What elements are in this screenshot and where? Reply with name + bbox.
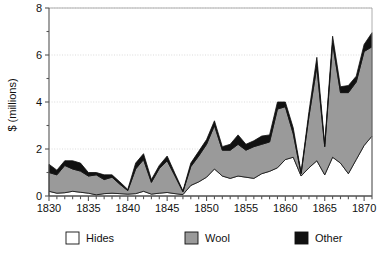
x-axis-tick-label: 1870 (352, 202, 376, 214)
legend-item-wool[interactable]: Wool (185, 232, 230, 244)
x-axis-tick-label: 1830 (37, 202, 61, 214)
legend-item-other[interactable]: Other (295, 232, 343, 244)
x-axis-tick-label: 1860 (273, 202, 297, 214)
x-axis-tick-label: 1845 (155, 202, 179, 214)
legend-swatch-other (295, 232, 308, 244)
y-axis-title-label: $ (millions) (6, 78, 18, 131)
legend-swatch-hides (66, 232, 79, 244)
y-axis-tick-label: 2 (36, 143, 42, 155)
stacked-area-chart: 02468 1830183518401845185018551860186518… (0, 0, 387, 260)
legend-item-hides[interactable]: Hides (66, 232, 115, 244)
x-axis-tick-label: 1855 (234, 202, 258, 214)
chart-legend: HidesWoolOther (66, 232, 343, 244)
y-axis-tick-label: 8 (36, 2, 42, 14)
y-axis-title: $ (millions) (6, 78, 18, 131)
legend-label-wool: Wool (205, 232, 230, 244)
legend-swatch-wool (185, 232, 198, 244)
chart-container: 02468 1830183518401845185018551860186518… (0, 0, 387, 260)
x-axis-tick-label: 1835 (76, 202, 100, 214)
y-axis-tick-label: 4 (36, 96, 42, 108)
x-axis-tick-label: 1840 (116, 202, 140, 214)
legend-label-hides: Hides (86, 232, 115, 244)
y-axis-tick-label: 6 (36, 49, 42, 61)
y-axis-tick-label: 0 (36, 190, 42, 202)
x-axis-tick-label: 1865 (312, 202, 336, 214)
legend-label-other: Other (315, 232, 343, 244)
x-axis-tick-label: 1850 (194, 202, 218, 214)
